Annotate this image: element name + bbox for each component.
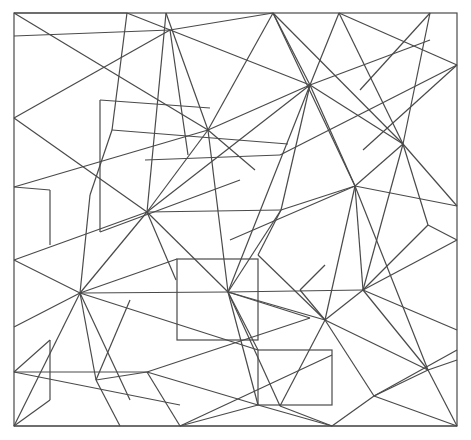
line-segment	[280, 406, 332, 426]
line-segment	[258, 405, 332, 426]
line-segment	[258, 210, 281, 255]
line-segment	[363, 65, 457, 150]
line-segment	[180, 355, 332, 426]
line-segment	[145, 155, 280, 160]
line-segment	[80, 293, 258, 350]
line-segment	[14, 293, 80, 327]
line-segment	[80, 195, 90, 293]
line-segment	[80, 292, 228, 293]
line-segment	[403, 144, 428, 225]
line-segment	[374, 396, 457, 426]
line-segment	[96, 372, 147, 380]
line-segment	[332, 396, 374, 426]
line-segment	[14, 13, 208, 130]
outer-frame	[14, 13, 457, 426]
line-segment	[363, 144, 403, 290]
line-segment	[147, 13, 166, 212]
line-segment	[273, 13, 355, 186]
line-segment	[355, 144, 403, 186]
line-segment	[363, 225, 428, 290]
line-segment	[310, 13, 339, 85]
line-segment	[100, 100, 210, 108]
line-segment	[14, 30, 170, 118]
line-segment	[80, 293, 96, 380]
line-segment	[14, 293, 80, 426]
line-segment	[208, 130, 255, 170]
geometric-line-drawing	[0, 0, 471, 440]
line-segment	[310, 85, 355, 186]
line-segment	[147, 212, 228, 292]
line-segment	[96, 380, 120, 426]
line-segment	[14, 118, 147, 212]
line-segments	[14, 13, 457, 426]
line-segment	[363, 290, 428, 370]
line-segment	[96, 300, 130, 380]
line-segment	[170, 13, 273, 30]
line-segment	[374, 350, 457, 396]
line-segment	[360, 13, 430, 90]
line-segment	[112, 13, 127, 130]
line-segment	[127, 13, 310, 85]
line-segment	[228, 292, 310, 318]
line-segment	[166, 13, 208, 130]
line-segment	[230, 186, 355, 240]
line-segment	[100, 180, 240, 232]
line-segment	[14, 400, 50, 426]
line-segment	[147, 318, 310, 372]
line-segment	[14, 260, 80, 293]
line-segment	[280, 320, 325, 406]
line-segment	[428, 360, 457, 370]
line-segment	[339, 13, 457, 65]
line-segment	[14, 187, 50, 190]
line-segment	[281, 186, 355, 210]
line-segment	[208, 13, 273, 130]
line-segment	[428, 225, 457, 240]
line-segment	[300, 265, 325, 290]
line-segment	[403, 13, 430, 144]
line-segment	[14, 30, 170, 36]
line-segment	[228, 210, 281, 292]
line-segment	[80, 293, 130, 400]
line-segment	[14, 340, 50, 372]
line-segment	[147, 212, 176, 280]
line-segment	[363, 240, 457, 290]
